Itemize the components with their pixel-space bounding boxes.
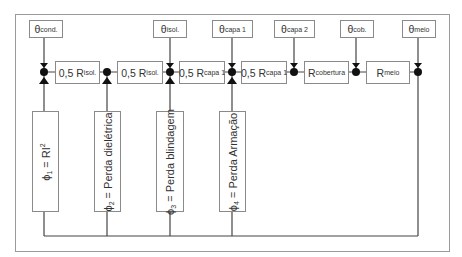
heat-source-4: ϕ4 = Perda Armação bbox=[219, 111, 246, 212]
heat-source-3: ϕ3 = Perda blindagem bbox=[156, 111, 184, 212]
resistor-cobertura: Rcobertura bbox=[304, 61, 349, 84]
heat-source-1: ϕ1 = RI2 bbox=[32, 111, 59, 212]
heat-source-4-label: ϕ4 = Perda Armação bbox=[226, 112, 239, 210]
resistor-isol-2: 0,5 Risol. bbox=[117, 61, 163, 84]
resistor-capa1-2: 0,5 Rcapa 1 bbox=[241, 61, 287, 84]
theta-capa1-box: θcapa 1 bbox=[212, 20, 253, 38]
theta-cond-box: θcond. bbox=[29, 20, 63, 38]
theta-meio-box: θmeio bbox=[402, 20, 436, 38]
resistor-isol-1: 0,5 Risol. bbox=[55, 61, 100, 84]
heat-source-3-label: ϕ3 = Perda blindagem bbox=[164, 109, 177, 215]
theta-capa2-box: θcapa 2 bbox=[274, 20, 315, 38]
resistor-capa1-1: 0,5 Rcapa 1 bbox=[179, 61, 225, 84]
theta-cob-box: θcob. bbox=[340, 20, 374, 38]
resistor-meio: Rmeio bbox=[366, 61, 410, 84]
theta-isol-box: θisol. bbox=[153, 20, 187, 38]
heat-source-1-label: ϕ1 = RI2 bbox=[39, 143, 53, 181]
heat-source-2: ϕ2 = Perda dielétrica bbox=[94, 111, 121, 212]
heat-source-2-label: ϕ2 = Perda dielétrica bbox=[101, 112, 114, 211]
